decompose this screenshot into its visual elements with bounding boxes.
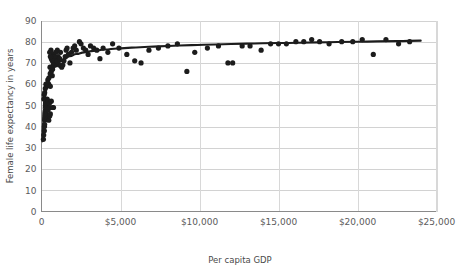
scatter-plot: 0102030405060708090 0$5,000$10,000$15,00… [0, 0, 464, 271]
y-tick-label-60: 60 [25, 79, 37, 89]
x-tick-label-15000: $15,000 [260, 217, 297, 227]
x-tick-label-25000: $25,000 [418, 217, 455, 227]
data-point [132, 58, 137, 63]
y-tick-label-50: 50 [25, 101, 37, 111]
x-axis-title: Per capita GDP [208, 255, 271, 265]
data-point [48, 84, 53, 89]
data-point [48, 48, 53, 53]
data-point [192, 50, 197, 55]
data-point [97, 56, 102, 61]
data-point [74, 48, 79, 53]
y-axis-title: Female life expectancy in years [5, 48, 15, 183]
data-point [58, 50, 63, 55]
data-point [110, 41, 115, 46]
x-tick-label-0: 0 [39, 217, 45, 227]
data-point [49, 99, 54, 104]
data-point [51, 105, 56, 110]
y-tick-label-40: 40 [25, 122, 37, 132]
y-tick-label-20: 20 [25, 164, 37, 174]
y-tick-label-90: 90 [25, 16, 37, 26]
data-point [65, 45, 70, 50]
x-tick-label-10000: $10,000 [181, 217, 218, 227]
y-tick-label-70: 70 [25, 58, 37, 68]
data-point [205, 45, 210, 50]
y-tick-label-80: 80 [25, 37, 37, 47]
data-point [371, 52, 376, 57]
data-point [184, 69, 189, 74]
data-point [138, 60, 143, 65]
data-point [259, 48, 264, 53]
y-tick-label-0: 0 [31, 207, 37, 217]
chart-figure: 0102030405060708090 0$5,000$10,000$15,00… [0, 0, 464, 271]
data-point [124, 52, 129, 57]
data-point [225, 60, 230, 65]
y-tick-label-30: 30 [25, 143, 37, 153]
x-tick-label-20000: $20,000 [339, 217, 376, 227]
data-point [48, 111, 53, 116]
data-point [67, 60, 72, 65]
data-point [146, 48, 151, 53]
y-tick-label-10: 10 [25, 186, 37, 196]
x-tick-label-5000: $5,000 [105, 217, 137, 227]
data-point [230, 60, 235, 65]
